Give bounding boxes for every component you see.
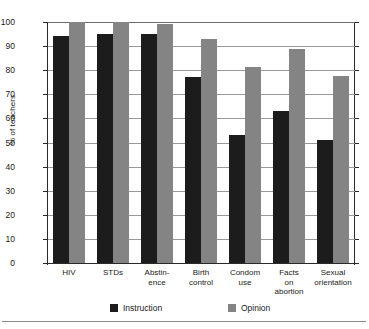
legend-entry-opinion: Opinion (228, 303, 270, 313)
bar-instruction-6 (317, 140, 333, 263)
tick-100 (43, 22, 47, 23)
x-category-label-line: orientation (305, 278, 361, 288)
tick-60 (43, 118, 47, 119)
page-divider-rule (2, 321, 366, 322)
bar-instruction-4 (229, 135, 245, 263)
y-tick-label-0: 0 (0, 258, 15, 268)
tick-50 (43, 143, 47, 144)
gridline-100 (48, 22, 355, 23)
tick-10 (43, 239, 47, 240)
bar-opinion-5 (289, 49, 305, 263)
bar-instruction-0 (53, 36, 69, 263)
plot-right-border (354, 22, 355, 265)
bar-opinion-4 (245, 67, 261, 263)
tick-0 (43, 263, 47, 264)
tick-30 (355, 191, 359, 192)
y-axis-line (47, 22, 48, 265)
tick-70 (355, 94, 359, 95)
bar-instruction-3 (185, 77, 201, 263)
y-tick-label-50: 50 (0, 138, 15, 148)
bar-instruction-1 (97, 34, 113, 263)
tick-50 (355, 143, 359, 144)
bar-chart-figure: % of teachers 0102030405060708090100 HIV… (0, 0, 369, 329)
tick-60 (355, 118, 359, 119)
legend-swatch-instruction (110, 304, 118, 312)
legend-entry-instruction: Instruction (110, 303, 162, 313)
y-tick-label-60: 60 (0, 113, 15, 123)
x-category-label-line: Sexual (305, 268, 361, 278)
legend-label-instruction: Instruction (123, 303, 162, 313)
bar-opinion-3 (201, 39, 217, 263)
y-tick-label-70: 70 (0, 89, 15, 99)
tick-70 (43, 94, 47, 95)
x-axis-line (47, 263, 355, 264)
y-tick-label-80: 80 (0, 65, 15, 75)
chart-legend: Instruction Opinion (0, 303, 369, 317)
tick-20 (43, 215, 47, 216)
x-category-label-line: abortion (261, 287, 317, 297)
bar-opinion-2 (157, 24, 173, 263)
bar-opinion-6 (333, 76, 349, 263)
plot-area (47, 22, 355, 264)
bar-opinion-0 (69, 22, 85, 263)
tick-80 (43, 70, 47, 71)
tick-90 (43, 46, 47, 47)
legend-label-opinion: Opinion (241, 303, 270, 313)
x-category-label-6: Sexualorientation (305, 268, 361, 287)
tick-10 (355, 239, 359, 240)
y-tick-label-10: 10 (0, 234, 15, 244)
y-tick-label-40: 40 (0, 162, 15, 172)
tick-30 (43, 191, 47, 192)
tick-40 (355, 167, 359, 168)
tick-20 (355, 215, 359, 216)
y-tick-label-30: 30 (0, 186, 15, 196)
bar-opinion-1 (113, 22, 129, 263)
tick-100 (355, 22, 359, 23)
y-tick-label-90: 90 (0, 41, 15, 51)
legend-swatch-opinion (228, 304, 236, 312)
y-tick-label-100: 100 (0, 17, 15, 27)
tick-0 (355, 263, 359, 264)
tick-90 (355, 46, 359, 47)
tick-40 (43, 167, 47, 168)
bar-instruction-5 (273, 111, 289, 263)
y-tick-label-20: 20 (0, 210, 15, 220)
bar-instruction-2 (141, 34, 157, 263)
tick-80 (355, 70, 359, 71)
